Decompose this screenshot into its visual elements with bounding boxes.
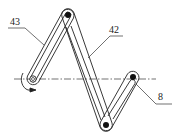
bottom-pivot bbox=[103, 122, 109, 128]
leader-42 bbox=[88, 36, 123, 58]
linkage-diagram: 43 42 8 bbox=[0, 0, 177, 138]
link-8 bbox=[100, 71, 139, 130]
left-pivot bbox=[30, 76, 36, 82]
leader-43 bbox=[8, 28, 44, 45]
right-pivot bbox=[130, 74, 136, 80]
leader-8 bbox=[136, 84, 172, 104]
label-42: 42 bbox=[109, 24, 119, 35]
link-42 bbox=[62, 9, 113, 132]
label-43: 43 bbox=[10, 16, 20, 27]
top-pivot bbox=[65, 12, 71, 18]
link-43 bbox=[27, 9, 74, 84]
label-8: 8 bbox=[158, 91, 163, 102]
